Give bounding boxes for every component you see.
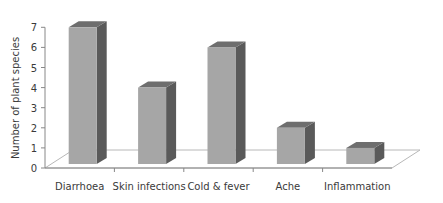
y-tick-label: 2 bbox=[31, 123, 37, 134]
bars bbox=[69, 21, 385, 164]
bar-skin-infections bbox=[138, 82, 176, 164]
y-tick-label: 6 bbox=[31, 42, 37, 53]
y-axis-label: Number of plant species bbox=[10, 37, 21, 159]
x-tick-label: Diarrhoea bbox=[55, 181, 104, 192]
chart-canvas: 01234567 DiarrhoeaSkin infectionsCold & … bbox=[0, 0, 443, 203]
bar-ache bbox=[277, 122, 315, 164]
x-tick-label: Skin infections bbox=[113, 181, 186, 192]
x-tick-label: Ache bbox=[276, 181, 301, 192]
y-tick-label: 0 bbox=[31, 163, 37, 174]
bar-cold-fever bbox=[208, 41, 246, 164]
bar-inflammation bbox=[346, 142, 384, 164]
bar-diarrhoea bbox=[69, 21, 107, 164]
y-tick-label: 3 bbox=[31, 103, 37, 114]
y-tick-label: 5 bbox=[31, 63, 37, 74]
y-tick-label: 7 bbox=[31, 22, 37, 33]
x-tick-label: Cold & fever bbox=[187, 181, 250, 192]
x-tick-label: Inflammation bbox=[324, 181, 390, 192]
bar-chart: 01234567 DiarrhoeaSkin infectionsCold & … bbox=[0, 0, 443, 203]
x-axis-labels: DiarrhoeaSkin infectionsCold & feverAche… bbox=[55, 181, 390, 192]
y-tick-label: 1 bbox=[31, 143, 37, 154]
y-tick-label: 4 bbox=[31, 83, 37, 94]
